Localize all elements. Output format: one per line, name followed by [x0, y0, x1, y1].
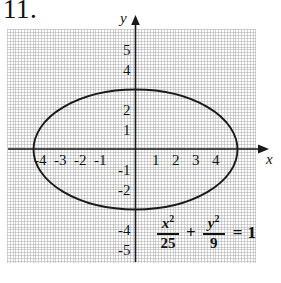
y-axis-label: y	[120, 11, 127, 26]
fraction-denominator-25: 25	[161, 235, 176, 252]
fraction-denominator-9: 9	[210, 235, 218, 252]
x-tick-label-4: 4	[212, 153, 220, 168]
x-tick-label--2: -2	[74, 153, 87, 168]
exponent-2: 2	[215, 213, 220, 224]
fraction-numerator-y: y2	[206, 214, 222, 233]
y-tick-label--4: -4	[118, 223, 131, 238]
figure-root: 11. -4 -3 -2 -1 1 2 3 4 5 4 2 1 -1 -2 -4…	[0, 0, 281, 283]
x-tick-label--4: -4	[34, 153, 47, 168]
y-tick-label-2: 2	[123, 103, 131, 118]
y-tick-label--1: -1	[118, 163, 131, 178]
x-axis	[8, 144, 269, 153]
equation-right-side: 1	[247, 223, 256, 243]
x-tick-label-3: 3	[192, 153, 200, 168]
equals-sign: =	[233, 223, 243, 243]
x-tick-label--3: -3	[54, 153, 67, 168]
x-tick-label-2: 2	[172, 153, 180, 168]
y-tick-label-4: 4	[123, 63, 131, 78]
x-tick-label--1: -1	[94, 153, 107, 168]
ellipse-equation: x2 25 + y2 9 = 1	[156, 214, 256, 252]
plus-operator: +	[186, 223, 196, 243]
fraction-numerator-x: x2	[160, 214, 177, 233]
x-axis-label: x	[266, 152, 273, 167]
fraction-x-squared-over-25: x2 25	[157, 214, 179, 252]
x-tick-label-1: 1	[152, 153, 160, 168]
y-tick-label-5: 5	[123, 43, 131, 58]
y-axis	[131, 15, 140, 262]
exponent-2: 2	[169, 213, 174, 224]
fraction-y-squared-over-9: y2 9	[203, 214, 225, 252]
y-tick-label-1: 1	[123, 123, 131, 138]
y-tick-label--5: -5	[118, 243, 131, 258]
y-tick-label--2: -2	[118, 183, 131, 198]
